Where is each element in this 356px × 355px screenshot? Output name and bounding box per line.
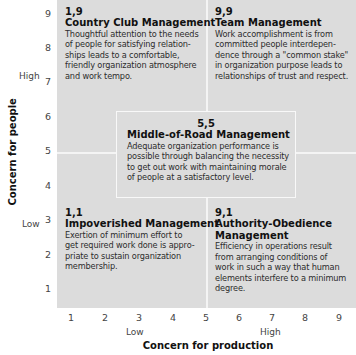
style-coord: 9,9 [215, 6, 355, 17]
style-coord: 1,9 [65, 6, 205, 17]
style-description: Thoughtful attention to the needs of peo… [65, 29, 205, 82]
x-tick: 6 [232, 312, 246, 323]
y-tick: 6 [41, 111, 55, 122]
style-title: Team Management [215, 17, 355, 29]
style-authority-obedience: 9,1 Authority-Obedience Management Effic… [215, 207, 355, 294]
style-description: Adequate organization performance is pos… [127, 141, 295, 183]
x-tick: 1 [64, 312, 78, 323]
y-tick: 3 [41, 214, 55, 225]
y-tick: 4 [41, 180, 55, 191]
x-tick: 7 [265, 312, 279, 323]
x-high-label: High [260, 327, 281, 337]
y-axis-title: Concern for people [7, 106, 18, 206]
style-middle-of-road: 5,5 Middle-of-Road Management Adequate o… [116, 111, 296, 198]
style-description: Work accomplishment is from committed pe… [215, 29, 355, 82]
style-coord: 9,1 [215, 207, 355, 218]
style-title: Middle-of-Road Management [127, 129, 295, 141]
style-impoverished: 1,1 Impoverished Management Exertion of … [65, 207, 205, 272]
y-tick: 9 [41, 8, 55, 19]
style-team: 9,9 Team Management Work accomplishment … [215, 6, 355, 81]
style-country-club: 1,9 Country Club Management Thoughtful a… [65, 6, 205, 81]
style-coord: 1,1 [65, 207, 205, 218]
x-tick: 4 [166, 312, 180, 323]
y-low-label: Low [22, 219, 40, 229]
x-tick: 9 [332, 312, 346, 323]
style-title: Country Club Management [65, 17, 205, 29]
y-tick: 2 [41, 249, 55, 260]
style-title: Impoverished Management [65, 218, 205, 230]
x-axis-title: Concern for production [0, 340, 356, 351]
x-tick: 3 [132, 312, 146, 323]
y-high-label: High [19, 71, 40, 81]
style-description: Efficiency in operations result from arr… [215, 241, 355, 294]
style-coord: 5,5 [127, 118, 295, 129]
y-tick: 8 [41, 42, 55, 53]
y-tick: 1 [41, 283, 55, 294]
x-tick: 5 [199, 312, 213, 323]
style-title: Authority-Obedience Management [215, 218, 355, 241]
y-tick: 7 [41, 76, 55, 87]
style-description: Exertion of minimum effort to get requir… [65, 230, 205, 272]
x-tick: 8 [298, 312, 312, 323]
x-tick: 2 [98, 312, 112, 323]
y-tick: 5 [41, 145, 55, 156]
x-low-label: Low [126, 327, 144, 337]
